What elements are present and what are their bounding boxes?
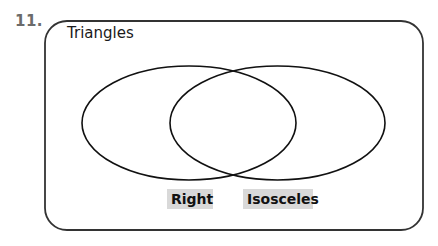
set-label-isosceles: Isosceles <box>243 189 313 209</box>
universe-label: Triangles <box>67 24 134 42</box>
set-label-right: Right <box>167 189 213 209</box>
venn-diagram <box>0 0 438 246</box>
universe-rectangle <box>45 21 423 230</box>
set-circle-right <box>82 66 296 180</box>
set-circle-isosceles <box>170 66 385 180</box>
